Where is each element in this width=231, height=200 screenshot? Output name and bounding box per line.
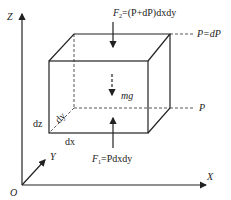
- y-axis: [22, 160, 45, 185]
- z-axis-label: Z: [7, 11, 13, 22]
- origin-label: O: [10, 187, 17, 198]
- bottom-force-label: F1=Pdxdy: [91, 153, 132, 165]
- bottom-pressure-label: P: [198, 102, 205, 113]
- y-axis-label: Y: [50, 151, 57, 162]
- top-force-label: F2=(P+dP)dxdy: [112, 7, 176, 19]
- weight-label: mg: [121, 90, 133, 101]
- fluid-element-diagram: Z X Y O P=dP P F2=(P+dP)dxdy mg F1=Pdxdy…: [0, 0, 231, 200]
- dz-label: dz: [33, 118, 43, 129]
- x-axis-label: X: [206, 171, 214, 182]
- dx-label: dx: [65, 136, 75, 147]
- top-pressure-label: P=dP: [196, 28, 221, 39]
- dy-label: dy: [53, 110, 68, 125]
